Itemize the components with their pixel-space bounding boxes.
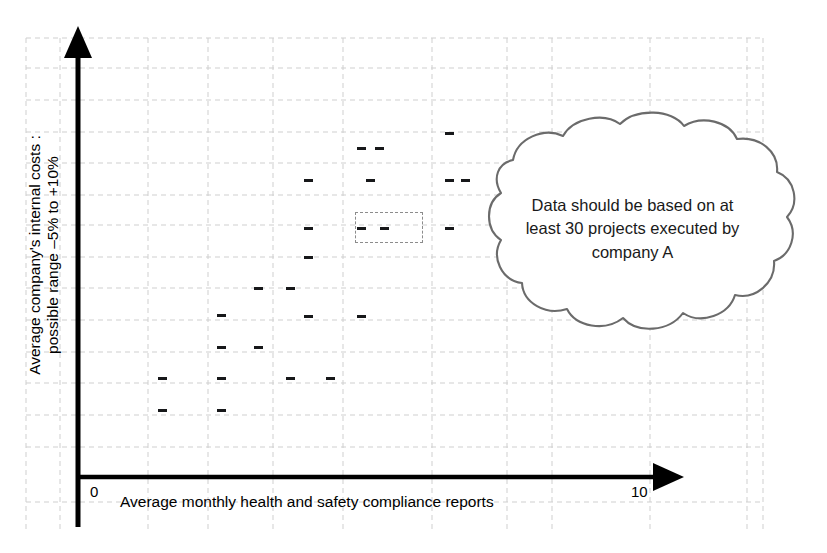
x-axis [78, 463, 684, 491]
x-axis-title: Average monthly health and safety compli… [120, 493, 494, 511]
cloud-callout-text: Data should be based on at least 30 proj… [489, 194, 776, 264]
data-point-markers [158, 132, 470, 412]
cloud-callout-line-3: company A [489, 241, 776, 264]
chart-figure: Average company's internal costs : possi… [0, 0, 827, 553]
y-axis-title: Average company's internal costs : possi… [26, 90, 63, 420]
plot-layer [0, 0, 827, 553]
x-axis-tick-max: 10 [631, 483, 648, 500]
cloud-callout-line-2: least 30 projects executed by [489, 217, 776, 240]
highlight-region-box[interactable] [355, 212, 423, 243]
x-axis-tick-min: 0 [90, 483, 98, 500]
cloud-callout-line-1: Data should be based on at [489, 194, 776, 217]
y-axis-title-line-2: possible range –5% to +10% [44, 90, 62, 420]
y-axis-title-line-1: Average company's internal costs : [26, 90, 44, 420]
y-axis [64, 26, 92, 527]
